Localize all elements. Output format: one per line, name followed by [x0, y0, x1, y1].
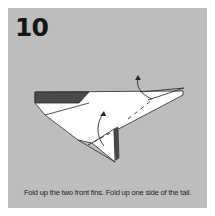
instruction-caption: Fold up the two front fins. Fold up one … [8, 188, 207, 197]
dark-band [35, 92, 89, 103]
instruction-panel: 10 Fold up the two front fins. Fold up o… [8, 8, 207, 208]
arrowhead-icon [135, 75, 141, 80]
paper-airplane-diagram [8, 8, 207, 208]
